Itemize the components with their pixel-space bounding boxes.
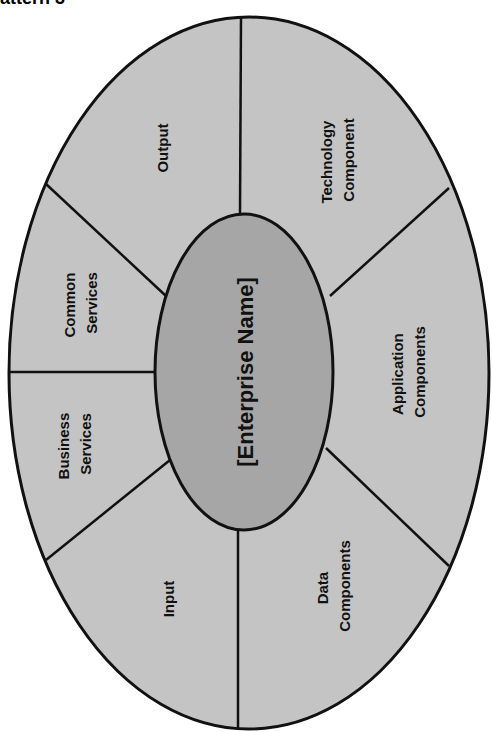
center-label: [Enterprise Name] [233,277,258,467]
segment-label-output: Output [154,123,171,172]
segment-label-input: Input [160,581,177,618]
enterprise-pattern-diagram: [Enterprise Name] Output Technology Comp… [0,0,493,732]
divider-top [240,17,241,214]
